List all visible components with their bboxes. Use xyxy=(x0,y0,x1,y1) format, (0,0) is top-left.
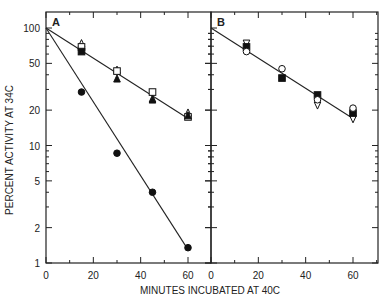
chart-figure: 0204060A0204060B125102050100MINUTES INCU… xyxy=(0,0,388,305)
x-axis-label: MINUTES INCUBATED AT 40C xyxy=(140,285,280,296)
fit-line xyxy=(46,28,188,250)
y-tick-label: 2 xyxy=(34,223,40,234)
circle-filled-marker xyxy=(185,244,192,251)
x-tick-label: 40 xyxy=(135,270,147,281)
y-tick-label: 100 xyxy=(23,23,40,34)
triangle-up-filled-marker xyxy=(114,75,121,82)
circle-open-marker xyxy=(350,105,357,112)
square-open-marker xyxy=(114,68,121,75)
x-tick-label: 20 xyxy=(253,270,265,281)
x-tick-label: 20 xyxy=(88,270,100,281)
circle-open-marker xyxy=(314,96,321,103)
circle-open-marker xyxy=(279,65,286,72)
y-tick-label: 5 xyxy=(34,176,40,187)
x-tick-label: 60 xyxy=(182,270,194,281)
panel-frame-b xyxy=(211,12,378,263)
circle-filled-marker xyxy=(114,150,121,157)
x-tick-label: 0 xyxy=(43,270,49,281)
square-filled-marker xyxy=(78,48,85,55)
y-tick-label: 50 xyxy=(29,58,41,69)
y-axis-label: PERCENT ACTIVITY AT 34C xyxy=(4,85,15,215)
square-open-marker xyxy=(149,89,156,96)
x-tick-label: 40 xyxy=(300,270,312,281)
y-tick-label: 20 xyxy=(29,105,41,116)
panel-frame-a xyxy=(46,12,211,263)
x-tick-label: 0 xyxy=(208,270,214,281)
x-tick-label: 60 xyxy=(347,270,359,281)
circle-filled-marker xyxy=(149,189,156,196)
panel-label-b: B xyxy=(217,16,225,28)
y-tick-label: 1 xyxy=(34,258,40,269)
plot-canvas: 0204060A0204060B125102050100MINUTES INCU… xyxy=(0,0,388,305)
y-tick-label: 10 xyxy=(29,141,41,152)
square-filled-marker xyxy=(279,75,286,82)
panel-label-a: A xyxy=(52,16,60,28)
circle-filled-marker xyxy=(78,89,85,96)
circle-open-marker xyxy=(243,48,250,55)
fit-line xyxy=(211,28,353,118)
